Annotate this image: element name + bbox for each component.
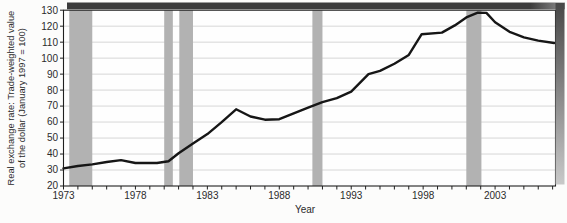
x-axis-title: Year (295, 204, 316, 215)
plot-background (64, 10, 556, 186)
y-axis-tick-label: 50 (47, 132, 59, 143)
exchange-rate-figure: 2030405060708090100110120130197319781983… (0, 0, 567, 223)
recession-band (312, 10, 322, 186)
x-axis-tick-label: 2003 (484, 190, 507, 201)
y-axis-tick-label: 110 (42, 37, 58, 48)
y-axis-tick-label: 60 (47, 116, 59, 127)
x-axis-tick-label: 1993 (340, 190, 363, 201)
y-axis: 2030405060708090100110120130 (41, 5, 63, 192)
y-axis-tick-label: 80 (47, 85, 59, 96)
y-axis-tick-label: 40 (47, 148, 59, 159)
x-axis-tick-label: 1988 (268, 190, 291, 201)
recession-band (179, 10, 193, 186)
top-shadow-bar (67, 3, 565, 10)
y-axis-title-line1: Real exchange rate: Trade-weighted value (6, 11, 16, 186)
x-axis-tick-label: 1978 (124, 190, 147, 201)
chart-canvas: 2030405060708090100110120130197319781983… (0, 0, 567, 223)
y-axis-tick-label: 70 (47, 100, 59, 111)
right-shadow-bar (556, 3, 565, 185)
y-axis-title: Real exchange rate: Trade-weighted value… (6, 11, 27, 186)
x-axis: 1973197819831988199319982003 (52, 186, 552, 201)
y-axis-tick-label: 30 (47, 164, 59, 175)
y-axis-title-line2: of the dollar (January 1997 = 100) (17, 28, 27, 168)
recession-band (69, 10, 92, 186)
x-axis-tick-label: 1998 (412, 190, 435, 201)
recession-band (466, 10, 481, 186)
y-axis-tick-label: 130 (41, 5, 58, 16)
y-axis-tick-label: 120 (41, 21, 58, 32)
y-axis-tick-label: 90 (47, 69, 59, 80)
y-axis-tick-label: 100 (41, 53, 58, 64)
x-axis-tick-label: 1973 (52, 190, 75, 201)
x-axis-tick-label: 1983 (196, 190, 219, 201)
